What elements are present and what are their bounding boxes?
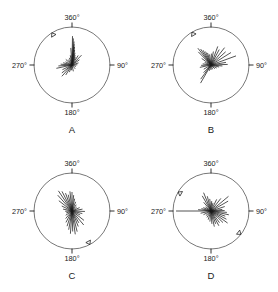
ray-series: [56, 36, 81, 76]
rose-panel-d: 360°90°180°270°D: [139, 146, 278, 292]
panel-letter-label: C: [69, 270, 76, 281]
axis-label-270: 270°: [151, 207, 166, 216]
rose-diagram-figure: 360°90°180°270°A360°90°180°270°B360°90°1…: [0, 0, 278, 292]
axis-label-270: 270°: [12, 207, 27, 216]
axis-label-360: 360°: [64, 159, 79, 168]
axis-label-360: 360°: [203, 159, 218, 168]
axis-label-180: 180°: [203, 108, 218, 117]
ray-series: [198, 46, 236, 83]
rose-panel-b: 360°90°180°270°B: [139, 0, 278, 146]
axis-label-360: 360°: [203, 13, 218, 22]
axis-label-90: 90°: [117, 207, 128, 216]
axis-label-90: 90°: [256, 207, 267, 216]
ray-series: [176, 193, 229, 227]
axis-label-270: 270°: [12, 61, 27, 70]
axis-label-180: 180°: [203, 254, 218, 263]
axis-label-90: 90°: [256, 61, 267, 70]
ray-series: [58, 191, 85, 234]
axis-label-180: 180°: [64, 254, 79, 263]
axis-label-180: 180°: [64, 108, 79, 117]
axis-label-90: 90°: [117, 61, 128, 70]
rose-panel-c: 360°90°180°270°C: [0, 146, 139, 292]
panel-letter-label: A: [69, 124, 76, 135]
axis-label-360: 360°: [64, 13, 79, 22]
panel-letter-label: D: [208, 270, 215, 281]
rose-panel-a: 360°90°180°270°A: [0, 0, 139, 146]
panel-letter-label: B: [208, 124, 214, 135]
axis-label-270: 270°: [151, 61, 166, 70]
